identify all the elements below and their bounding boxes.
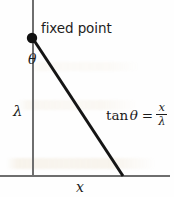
- angle-theta-label: θ: [28, 52, 36, 66]
- geometry-diagram-figure: fixed point θ λ x tan θ = x λ: [0, 0, 174, 197]
- equation-function-name: tan: [106, 107, 128, 123]
- fixed-point-label: fixed point: [41, 22, 112, 36]
- equation-equals-sign: =: [142, 107, 153, 123]
- horizontal-side-x-label: x: [76, 180, 84, 194]
- equation-angle-symbol: θ: [130, 107, 138, 123]
- equation-left-side: tan θ: [106, 107, 138, 123]
- fixed-point-marker: [27, 33, 37, 43]
- equation-fraction: x λ: [156, 102, 167, 128]
- equation-denominator: λ: [156, 115, 167, 128]
- equation-numerator: x: [157, 102, 168, 115]
- equation-tan-theta: tan θ = x λ: [106, 102, 167, 128]
- vertical-side-lambda-label: λ: [13, 104, 23, 119]
